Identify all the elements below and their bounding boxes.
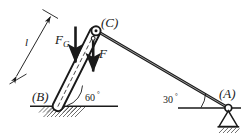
pin-support-a (218, 105, 240, 134)
dimension-line-length (10, 10, 59, 85)
label-force-applied: F (98, 46, 108, 61)
label-angle-30: 30 (163, 94, 173, 105)
label-point-c: (C) (101, 15, 118, 30)
label-point-a: (A) (219, 86, 236, 101)
pin-joint-c (91, 26, 100, 35)
statics-diagram-figure: (C) (B) (A) F G F l 60 ° 30 ° (0, 0, 247, 139)
ground-surface-b (30, 106, 118, 117)
label-length: l (25, 36, 28, 48)
label-force-weight-subscript: G (63, 39, 70, 49)
label-angle-60: 60 (85, 92, 95, 103)
ground-hatching-a (219, 127, 240, 133)
label-point-b: (B) (32, 89, 49, 104)
diagram-canvas: (C) (B) (A) F G F l 60 ° 30 ° (0, 0, 247, 139)
label-angle-60-degree-sign: ° (97, 90, 100, 98)
label-angle-30-degree-sign: ° (175, 92, 178, 100)
